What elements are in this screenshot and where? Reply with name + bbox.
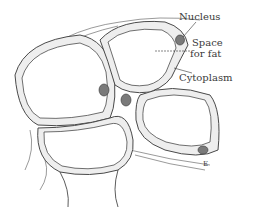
- label-cytoplasm: Cytoplasm: [179, 73, 233, 83]
- nucleus-4: [198, 146, 208, 154]
- label-space-for-fat-line1: Space: [192, 38, 223, 48]
- nucleus-1: [99, 84, 109, 96]
- label-nucleus: Nucleus: [179, 12, 220, 22]
- fat-cell-4: [136, 89, 219, 156]
- nucleus-3: [121, 94, 131, 106]
- fat-cell-1: [15, 35, 115, 126]
- label-space-for-fat-line2: for fat: [190, 49, 221, 59]
- adipose-cell-illustration: [0, 0, 253, 207]
- artist-signature: E: [203, 159, 208, 169]
